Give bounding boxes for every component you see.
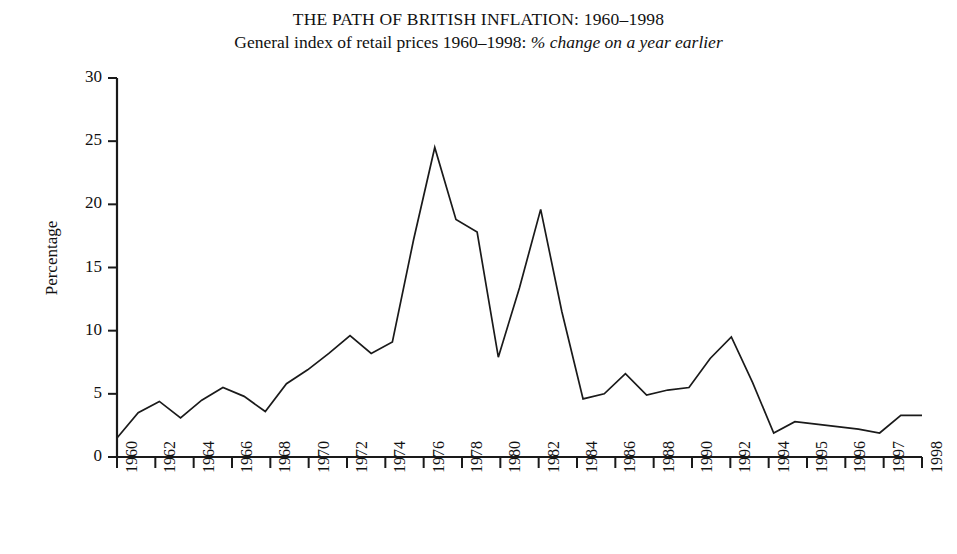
x-tick-label: 1992 (736, 441, 754, 473)
x-tick-label: 1964 (200, 441, 218, 473)
x-tick-label: 1960 (123, 441, 141, 473)
y-tick-label: 10 (56, 320, 102, 340)
x-tick-label: 1984 (583, 441, 601, 473)
x-tick-label: 1974 (391, 441, 409, 473)
inflation-series-line (117, 147, 922, 438)
x-tick-label: 1978 (468, 441, 486, 473)
y-tick-label: 25 (56, 130, 102, 150)
x-tick-label: 1982 (545, 441, 563, 473)
x-tick-label: 1997 (890, 441, 908, 473)
x-tick-label: 1988 (660, 441, 678, 473)
x-tick-label: 1976 (430, 441, 448, 473)
y-axis-ticks (108, 78, 117, 457)
y-tick-label: 0 (56, 446, 102, 466)
x-tick-label: 1968 (276, 441, 294, 473)
y-tick-label: 20 (56, 193, 102, 213)
x-tick-label: 1972 (353, 441, 371, 473)
x-tick-label: 1962 (161, 441, 179, 473)
x-tick-label: 1986 (621, 441, 639, 473)
y-tick-label: 30 (56, 67, 102, 87)
x-tick-label: 1966 (238, 441, 256, 473)
axis-lines (117, 78, 922, 457)
x-tick-label: 1990 (698, 441, 716, 473)
y-tick-label: 5 (56, 383, 102, 403)
inflation-chart-figure: THE PATH OF BRITISH INFLATION: 1960–1998… (0, 0, 957, 554)
x-tick-label: 1998 (928, 441, 946, 473)
x-tick-label: 1980 (506, 441, 524, 473)
x-tick-label: 1995 (813, 441, 831, 473)
x-tick-label: 1994 (775, 441, 793, 473)
x-tick-label: 1996 (851, 441, 869, 473)
x-tick-label: 1970 (315, 441, 333, 473)
plot-area: Percentage 051015202530 1960196219641966… (0, 0, 957, 554)
y-tick-label: 15 (56, 257, 102, 277)
